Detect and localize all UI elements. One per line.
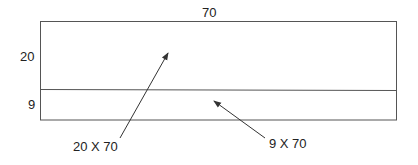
divider-line bbox=[41, 90, 397, 91]
top-height-label: 20 bbox=[20, 50, 34, 63]
bottom-area-label: 9 X 70 bbox=[269, 137, 307, 150]
arrow-top-section bbox=[120, 53, 168, 138]
diagram-drawing bbox=[0, 0, 418, 165]
width-label: 70 bbox=[202, 6, 216, 19]
bottom-height-label: 9 bbox=[28, 98, 35, 111]
top-area-label: 20 X 70 bbox=[73, 140, 118, 153]
outer-rectangle bbox=[41, 22, 397, 121]
diagram-canvas: 70 20 9 20 X 70 9 X 70 bbox=[0, 0, 418, 165]
